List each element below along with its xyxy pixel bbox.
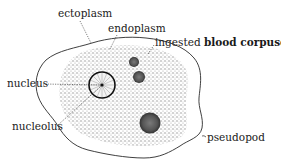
blood-corpuscle-3 bbox=[140, 113, 161, 134]
nucleus bbox=[89, 72, 115, 98]
amoeba-diagram: ectoplasm endoplasm ingested blood corpu… bbox=[0, 0, 281, 165]
label-nucleolus: nucleolus bbox=[12, 121, 63, 132]
label-blood-corpuscle: blood corpuscle bbox=[204, 36, 281, 48]
pseudopod-leader bbox=[202, 136, 206, 137]
blood-corpuscle-1 bbox=[129, 57, 139, 67]
label-pseudopod: pseudopod bbox=[207, 132, 265, 143]
label-ingested-blood-corpuscle: ingested blood corpuscle bbox=[155, 37, 281, 48]
label-endoplasm: endoplasm bbox=[108, 23, 166, 34]
label-ingested: ingested bbox=[155, 36, 201, 48]
label-nucleus: nucleus bbox=[7, 78, 48, 89]
ectoplasm-leader bbox=[80, 21, 91, 43]
label-ectoplasm: ectoplasm bbox=[58, 8, 112, 19]
blood-corpuscle-2 bbox=[133, 71, 145, 83]
endoplasm-region bbox=[59, 45, 188, 146]
